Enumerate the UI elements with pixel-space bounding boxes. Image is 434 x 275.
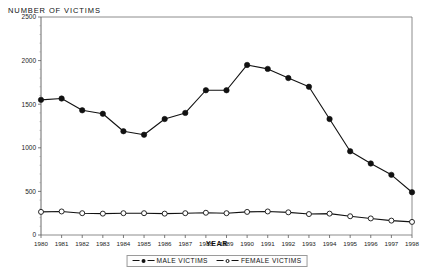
y-tick-label: 2500 [22, 13, 37, 20]
data-point [203, 210, 208, 215]
data-point [224, 88, 229, 93]
data-point [286, 210, 291, 215]
data-point [245, 209, 250, 214]
y-tick-label: 1000 [22, 144, 37, 151]
data-point [389, 218, 394, 223]
data-point [203, 88, 208, 93]
data-point [183, 211, 188, 216]
data-point [162, 116, 167, 121]
data-point [368, 216, 373, 221]
data-point [141, 132, 146, 137]
data-point [142, 211, 147, 216]
filled-circle-icon [142, 259, 146, 263]
data-point [265, 209, 270, 214]
open-circle-icon [226, 259, 230, 263]
y-axis-ticks: 05001000150020002500 [22, 13, 41, 238]
y-tick-label: 2000 [22, 57, 37, 64]
data-point [59, 209, 64, 214]
y-tick-label: 0 [32, 231, 36, 238]
data-point [409, 190, 414, 195]
legend-item-female: FEMALE VICTIMS [217, 257, 302, 264]
data-point [38, 97, 43, 102]
data-point [121, 129, 126, 134]
plot-frame [41, 17, 412, 235]
line-chart-plot: 05001000150020002500 1980198119821983198… [0, 0, 434, 275]
data-point [100, 111, 105, 116]
legend-label-male: MALE VICTIMS [157, 257, 208, 264]
data-point [183, 110, 188, 115]
data-point [100, 211, 105, 216]
data-point [39, 209, 44, 214]
legend-line-icon [133, 260, 140, 261]
series-line-male [41, 65, 412, 192]
data-point [265, 66, 270, 71]
y-tick-label: 500 [25, 188, 36, 195]
data-point [80, 211, 85, 216]
chart-container: NUMBER OF VICTIMS 05001000150020002500 1… [0, 0, 434, 275]
legend-line-icon [232, 260, 239, 261]
legend-line-icon [148, 260, 155, 261]
data-point [121, 211, 126, 216]
data-point [348, 214, 353, 219]
y-tick-label: 1500 [22, 101, 37, 108]
data-point [327, 211, 332, 216]
data-point [59, 96, 64, 101]
x-axis-title: YEAR [0, 240, 434, 247]
data-point [368, 161, 373, 166]
data-point [410, 219, 415, 224]
data-point [162, 211, 167, 216]
data-point [306, 212, 311, 217]
legend-line-icon [217, 260, 224, 261]
data-point [286, 75, 291, 80]
legend-item-male: MALE VICTIMS [133, 257, 208, 264]
chart-legend: MALE VICTIMS FEMALE VICTIMS [127, 255, 308, 267]
data-point [347, 149, 352, 154]
data-series-layer [38, 62, 414, 224]
data-point [306, 84, 311, 89]
legend-label-female: FEMALE VICTIMS [241, 257, 302, 264]
data-point [224, 211, 229, 216]
data-point [244, 62, 249, 67]
data-point [389, 172, 394, 177]
data-point [327, 116, 332, 121]
data-point [80, 108, 85, 113]
